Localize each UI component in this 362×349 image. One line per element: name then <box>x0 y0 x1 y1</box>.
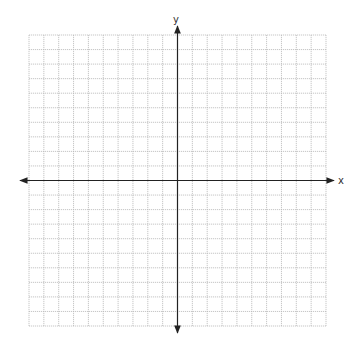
x-axis-label: x <box>338 175 344 186</box>
axes <box>20 26 334 333</box>
coordinate-plane: x y <box>0 0 362 349</box>
y-axis-label: y <box>173 14 179 25</box>
